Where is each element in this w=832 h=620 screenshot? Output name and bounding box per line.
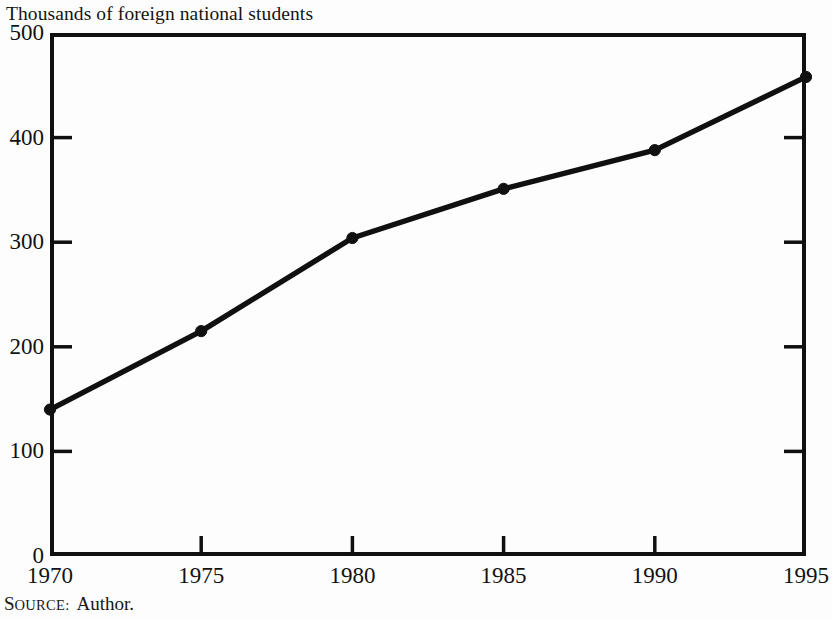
source-label-lead: S (4, 593, 15, 614)
x-tick-label: 1985 (444, 564, 564, 587)
line-series-layer (50, 33, 806, 556)
data-point-marker (44, 404, 55, 415)
x-tick-label: 1990 (595, 564, 715, 587)
plot-area (50, 33, 806, 556)
data-point-marker (196, 326, 207, 337)
chart-figure: Thousands of foreign national students 0… (0, 0, 832, 620)
source-label-rest: OURCE: (15, 597, 70, 613)
data-point-marker (498, 183, 509, 194)
source-note: SOURCE:Author. (4, 592, 134, 617)
data-point-marker (347, 232, 358, 243)
x-tick-label: 1970 (0, 564, 110, 587)
data-point-marker (800, 71, 811, 82)
data-line (50, 77, 806, 410)
x-tick-label: 1980 (292, 564, 412, 587)
data-point-marker (649, 145, 660, 156)
source-value: Author. (77, 593, 135, 614)
x-tick-label: 1975 (141, 564, 261, 587)
x-tick-label: 1995 (746, 564, 832, 587)
